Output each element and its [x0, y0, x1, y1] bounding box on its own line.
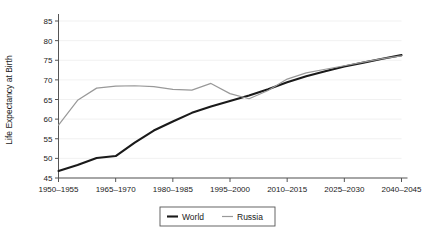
chart-canvas: 455055606570758085 1950–19551965–1970198… [0, 0, 432, 234]
x-tick-label: 2040–2045 [381, 185, 422, 194]
y-axis-title: Life Expectancy at Birth [4, 55, 14, 145]
y-tick-label: 60 [44, 115, 53, 124]
y-tick-label: 65 [44, 96, 53, 105]
chart-legend: WorldRussia [160, 207, 275, 226]
y-tick-label: 45 [44, 174, 53, 183]
x-tick-label: 1980–1985 [153, 185, 194, 194]
y-axis-ticks: 455055606570758085 [44, 17, 59, 183]
x-tick-label: 2010–2015 [267, 185, 308, 194]
y-tick-label: 70 [44, 76, 53, 85]
y-tick-label: 75 [44, 56, 53, 65]
axis-frame [59, 14, 408, 178]
y-tick-label: 85 [44, 17, 53, 26]
y-tick-label: 50 [44, 154, 53, 163]
legend-label-russia: Russia [237, 212, 263, 222]
gridlines [59, 21, 402, 178]
y-tick-label: 80 [44, 37, 53, 46]
y-tick-label: 55 [44, 135, 53, 144]
series-line-world [59, 55, 402, 171]
x-axis-ticks: 1950–19551965–19701980–19851995–20002010… [38, 178, 422, 194]
x-tick-label: 2025–2030 [324, 185, 365, 194]
x-tick-label: 1995–2000 [210, 185, 251, 194]
axes [59, 14, 408, 178]
data-series-group [59, 55, 402, 171]
line-chart: 455055606570758085 1950–19551965–1970198… [0, 0, 432, 234]
x-tick-label: 1965–1970 [96, 185, 137, 194]
legend-label-world: World [182, 212, 204, 222]
x-tick-label: 1950–1955 [38, 185, 79, 194]
